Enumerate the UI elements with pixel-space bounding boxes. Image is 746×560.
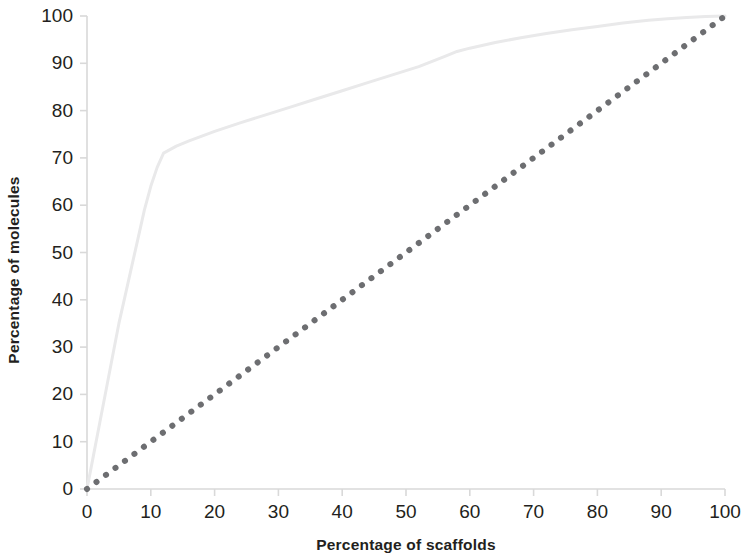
- x-tick-label: 100: [702, 502, 746, 521]
- x-tick-label: 50: [383, 502, 429, 521]
- y-tick-label: 40: [27, 290, 73, 309]
- y-tick-label: 20: [27, 384, 73, 403]
- x-tick-label: 10: [128, 502, 174, 521]
- y-tick-label: 80: [27, 101, 73, 120]
- y-tick-label: 10: [27, 432, 73, 451]
- x-axis-title: Percentage of scaffolds: [87, 535, 725, 555]
- series-line-1: [87, 16, 725, 489]
- chart-container: Percentage of molecules Percentage of sc…: [0, 0, 746, 560]
- chart-plot-area: [0, 0, 746, 560]
- y-tick-label: 90: [27, 53, 73, 72]
- x-tick-label: 40: [319, 502, 365, 521]
- data-series: [87, 16, 725, 489]
- y-tick-label: 100: [27, 6, 73, 25]
- y-axis-title: Percentage of molecules: [3, 120, 25, 420]
- x-tick-label: 90: [638, 502, 684, 521]
- x-tick-label: 70: [511, 502, 557, 521]
- x-tick-label: 20: [192, 502, 238, 521]
- x-tick-label: 60: [447, 502, 493, 521]
- y-tick-label: 30: [27, 337, 73, 356]
- y-tick-label: 50: [27, 243, 73, 262]
- x-tick-label: 0: [64, 502, 110, 521]
- x-tick-label: 80: [574, 502, 620, 521]
- x-tick-label: 30: [255, 502, 301, 521]
- y-tick-label: 70: [27, 148, 73, 167]
- y-tick-label: 0: [27, 479, 73, 498]
- y-tick-label: 60: [27, 195, 73, 214]
